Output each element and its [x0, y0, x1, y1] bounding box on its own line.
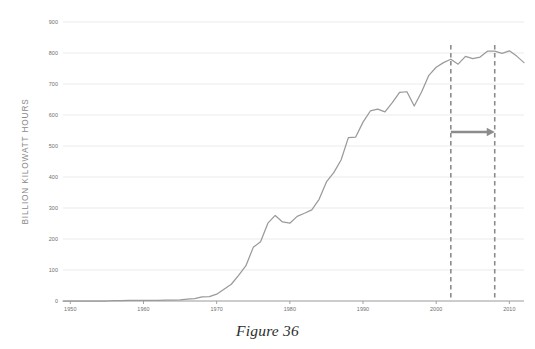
x-axis-tick-labels: 1950196019701980199020002010 [64, 306, 515, 312]
x-tick-label-1950: 1950 [64, 306, 76, 312]
gridlines [63, 22, 524, 270]
y-tick-label-400: 400 [49, 174, 58, 180]
x-tick-label-1980: 1980 [284, 306, 296, 312]
y-tick-label-500: 500 [49, 143, 58, 149]
y-axis-title-text: BILLION KILOWATT HOURS [21, 98, 30, 224]
line-chart: 0100200300400500600700800900 19501960197… [0, 0, 535, 349]
y-tick-label-700: 700 [49, 81, 58, 87]
chart-annotations [451, 45, 495, 301]
y-tick-label-600: 600 [49, 112, 58, 118]
figure-caption: Figure 36 [0, 322, 535, 340]
x-axis [63, 301, 524, 304]
x-tick-label-2010: 2010 [503, 306, 515, 312]
figure-container: 0100200300400500600700800900 19501960197… [0, 0, 535, 349]
y-tick-label-0: 0 [55, 298, 58, 304]
y-axis-tick-labels: 0100200300400500600700800900 [49, 19, 58, 304]
y-tick-label-900: 900 [49, 19, 58, 25]
x-tick-label-1970: 1970 [210, 306, 222, 312]
data-series [63, 51, 524, 301]
x-tick-label-1990: 1990 [357, 306, 369, 312]
annotation-span-arrow-head [487, 128, 495, 136]
y-axis-title: BILLION KILOWATT HOURS [21, 98, 30, 224]
series-line-0 [63, 51, 524, 301]
y-tick-label-100: 100 [49, 267, 58, 273]
x-tick-label-2000: 2000 [430, 306, 442, 312]
y-tick-label-300: 300 [49, 205, 58, 211]
y-tick-label-800: 800 [49, 50, 58, 56]
x-tick-label-1960: 1960 [137, 306, 149, 312]
y-tick-label-200: 200 [49, 236, 58, 242]
